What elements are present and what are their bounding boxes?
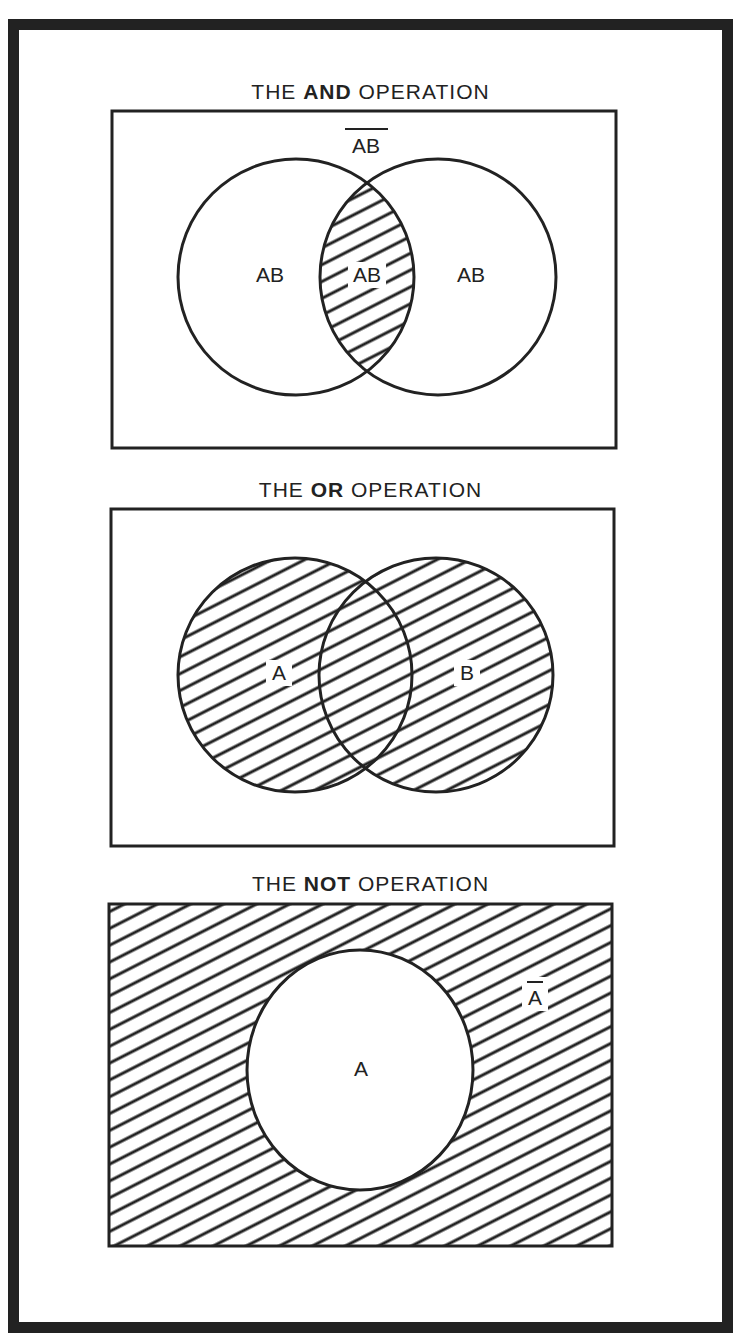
- venn-diagrams: AB AB AB AB A B A A: [0, 0, 741, 1344]
- and-left-label: AB: [256, 263, 284, 286]
- and-intersection-label: AB: [353, 263, 381, 286]
- and-panel: AB AB AB AB: [112, 111, 616, 448]
- not-outside-label: A: [528, 986, 542, 1009]
- or-b-label: B: [460, 661, 474, 684]
- or-panel: A B: [111, 509, 614, 846]
- and-right-label: AB: [457, 263, 485, 286]
- and-outside-label: AB: [352, 134, 380, 157]
- or-a-label: A: [272, 661, 286, 684]
- not-a-label: A: [354, 1057, 368, 1080]
- or-union-shading: [170, 550, 560, 800]
- not-panel: A A: [109, 904, 612, 1246]
